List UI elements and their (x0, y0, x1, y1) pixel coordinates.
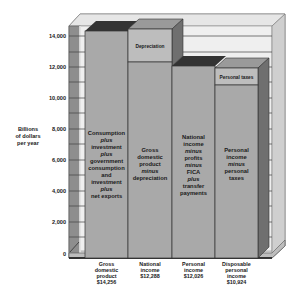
svg-text:$12,288: $12,288 (140, 273, 160, 279)
svg-text:plus: plus (187, 176, 201, 182)
svg-text:minus: minus (185, 162, 203, 168)
svg-text:domestic: domestic (137, 154, 163, 160)
svg-text:income: income (183, 141, 204, 147)
y-tick-label: 6,000 (52, 157, 66, 163)
category-label-disposable-income: Disposable personal income $10,924 (222, 261, 251, 285)
svg-text:Consumption: Consumption (88, 130, 126, 136)
svg-text:FICA: FICA (187, 169, 201, 175)
svg-text:net exports: net exports (91, 193, 122, 199)
y-tick-label: 8,000 (52, 126, 66, 132)
svg-text:product: product (139, 161, 161, 167)
svg-text:consumption: consumption (88, 165, 125, 171)
svg-text:profits: profits (184, 155, 202, 161)
y-tick-label: 0 (63, 251, 66, 257)
svg-text:per year: per year (17, 140, 40, 146)
svg-text:Gross: Gross (142, 147, 159, 153)
y-tick-label: 12,000 (49, 64, 66, 70)
svg-text:minus: minus (228, 161, 246, 167)
y-tick-label: 10,000 (49, 95, 66, 101)
svg-text:personal: personal (224, 168, 249, 174)
svg-text:minus: minus (185, 148, 203, 154)
svg-text:investment: investment (91, 179, 122, 185)
y-tick-label: 14,000 (49, 33, 66, 39)
svg-text:plus: plus (100, 151, 114, 157)
segment-label-personal-taxes: Personal taxes (220, 75, 254, 80)
category-label-gdp: Gross domestic product $14,256 (95, 261, 119, 285)
svg-text:income: income (226, 154, 247, 160)
x-axis-labels: Gross domestic product $14,256 National … (95, 261, 251, 285)
y-tick-label: 2,000 (52, 219, 66, 225)
y-axis-ticks: 14,000 12,000 10,000 8,000 6,000 4,000 2… (49, 33, 66, 257)
svg-text:plus: plus (100, 186, 114, 192)
segment-label-depreciation: Depreciation (135, 44, 164, 49)
svg-text:National: National (182, 134, 205, 140)
svg-text:$12,026: $12,026 (184, 273, 204, 279)
svg-text:depreciation: depreciation (133, 175, 168, 181)
svg-text:transfer: transfer (183, 183, 205, 189)
svg-text:investment: investment (91, 144, 122, 150)
svg-text:of dollars: of dollars (15, 133, 40, 139)
y-axis-title: Billions of dollars per year (15, 126, 40, 146)
svg-text:Billions: Billions (18, 126, 38, 132)
svg-text:and: and (101, 172, 112, 178)
chart-canvas: 14,000 12,000 10,000 8,000 6,000 4,000 2… (0, 0, 299, 301)
category-label-national-income: National income $12,288 (139, 261, 161, 279)
y-tick-label: 4,000 (52, 188, 66, 194)
svg-text:taxes: taxes (229, 175, 244, 181)
svg-text:payments: payments (180, 190, 207, 196)
svg-text:Personal: Personal (224, 147, 249, 153)
svg-text:plus: plus (100, 137, 114, 143)
svg-text:$10,924: $10,924 (227, 279, 247, 285)
category-label-personal-income: Personal income $12,026 (182, 261, 205, 279)
svg-text:$14,256: $14,256 (97, 279, 117, 285)
svg-text:government: government (90, 158, 123, 164)
svg-text:minus: minus (141, 168, 159, 174)
